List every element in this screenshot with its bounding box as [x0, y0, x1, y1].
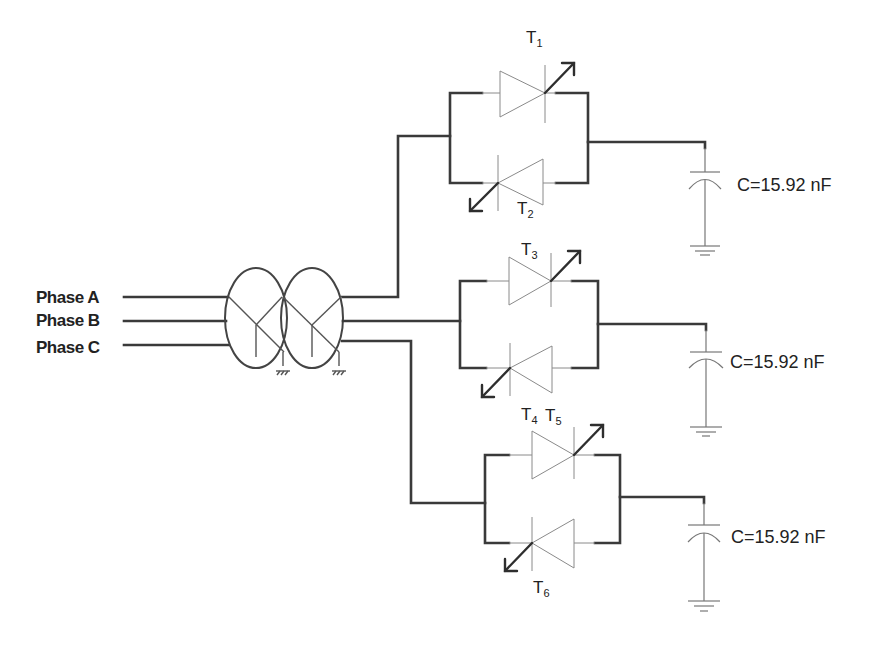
- thyristor-t4-icon: [482, 343, 572, 397]
- t2-label: T2: [517, 199, 534, 220]
- bus-branch-3: [342, 341, 485, 503]
- t1-label: T1: [526, 28, 543, 49]
- t3-label: T3: [521, 240, 538, 261]
- thyristor-pair-2: T3 T4: [460, 240, 598, 426]
- thyristor-t6-icon: [505, 517, 595, 571]
- ground-icon: [332, 352, 346, 375]
- thyristor-t2-icon: [470, 155, 556, 211]
- capacitor-1-icon: [689, 148, 721, 255]
- phase-b-label: Phase B: [36, 311, 100, 330]
- phase-c-label: Phase C: [36, 338, 100, 357]
- capacitor-2-label: C=15.92 nF: [730, 352, 825, 372]
- ground-icon: [276, 352, 290, 375]
- capacitor-3-label: C=15.92 nF: [731, 527, 826, 547]
- branch-3-output-wire: [620, 497, 704, 503]
- bus-wiring: [342, 136, 485, 503]
- t6-label: T6: [533, 578, 550, 599]
- phase-a-label: Phase A: [36, 288, 99, 307]
- thyristor-pair-1: T1 T2: [450, 28, 588, 220]
- capacitor-1-label: C=15.92 nF: [737, 175, 832, 195]
- t4-label: T4: [521, 405, 538, 426]
- branch-2-output-wire: [598, 324, 706, 330]
- branch-1-output-wire: [588, 142, 705, 148]
- phase-inputs: Phase A Phase B Phase C: [36, 288, 229, 357]
- bus-branch-1: [343, 136, 450, 297]
- circuit-diagram: Phase A Phase B Phase C: [0, 0, 876, 647]
- capacitor-2-icon: [689, 330, 723, 436]
- capacitor-3-icon: [688, 503, 720, 611]
- transformer-icon: [225, 268, 346, 375]
- thyristor-t5-icon: [509, 425, 603, 479]
- t5-label: T5: [545, 406, 562, 427]
- thyristor-pair-3: T6: [485, 425, 620, 599]
